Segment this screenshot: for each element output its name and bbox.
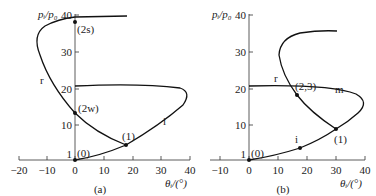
x-tick-label: 20: [128, 164, 140, 176]
point-label: (2,3): [295, 80, 316, 93]
y-tick-label: 20: [61, 83, 73, 95]
y-axis-label: pᵢ/p₀: [211, 8, 232, 20]
x-tick-label: 0: [246, 164, 252, 176]
y-tick-label: 1: [67, 148, 73, 160]
point-label: (1): [334, 133, 347, 146]
y-tick-label: 10: [235, 119, 247, 131]
point-label: (2w): [78, 102, 99, 115]
point-label: (2s): [77, 23, 94, 36]
curve-label-i: i: [163, 115, 166, 127]
x-tick-label: 10: [273, 164, 285, 176]
x-tick-label: 40: [360, 164, 372, 176]
x-tick-label: −10: [211, 164, 229, 176]
curve-label-m: m: [335, 83, 344, 95]
shock-polar-figure: −20 −10 0 10 20 30 40 40 30 20 10 1 pᵢ/p…: [0, 0, 376, 196]
point-23: [295, 93, 299, 97]
point-label: (0): [77, 147, 90, 160]
point-2w: [73, 111, 77, 115]
point-i: [298, 146, 302, 150]
point-label: (0): [251, 147, 264, 160]
y-tick-label: 30: [235, 46, 247, 58]
point-1: [124, 143, 128, 147]
point-label: (1): [122, 130, 135, 143]
y-tick-label: 20: [235, 83, 247, 95]
curve-label-r: r: [40, 74, 44, 86]
panel-label: (a): [94, 183, 107, 196]
curve-label-i: i: [295, 133, 298, 145]
curve-i: [75, 85, 187, 160]
x-tick-label: 20: [302, 164, 314, 176]
y-axis-label: pᵢ/p₀: [37, 8, 58, 20]
curve-m: [249, 86, 364, 129]
x-tick-label: 30: [331, 164, 343, 176]
x-tick-label: −10: [38, 164, 56, 176]
x-tick-label: 10: [99, 164, 111, 176]
curve-label-r: r: [274, 72, 278, 84]
y-tick-label: 10: [61, 119, 73, 131]
x-tick-label: 40: [185, 164, 197, 176]
y-tick-label: 30: [61, 46, 73, 58]
curve-r: [37, 16, 127, 145]
point-1: [334, 127, 338, 131]
x-axis-label: θᵢ/(°): [340, 177, 362, 190]
panel-b: −10 0 10 20 30 40 40 30 20 10 1 pᵢ/p₀ θᵢ…: [210, 8, 371, 196]
y-tick-label: 1: [241, 148, 247, 160]
x-axis-label: θᵢ/(°): [165, 177, 187, 190]
y-tick-label: 40: [235, 9, 247, 21]
panel-label: (b): [277, 183, 290, 196]
x-tick-label: 0: [72, 164, 78, 176]
x-tick-label: −20: [10, 164, 28, 176]
panel-a: −20 −10 0 10 20 30 40 40 30 20 10 1 pᵢ/p…: [10, 8, 196, 196]
x-tick-label: 30: [156, 164, 168, 176]
